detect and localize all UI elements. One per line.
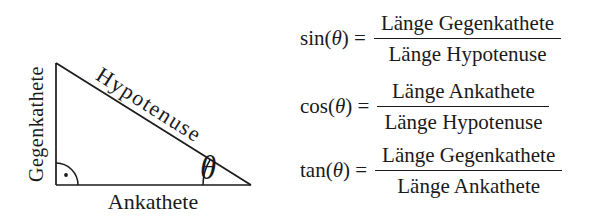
cosine-fraction: Länge Ankathete Länge Hypotenuse <box>377 79 549 134</box>
sine-formula: sin(θ) = Länge Gegenkathete Länge Hypote… <box>300 11 561 66</box>
close-paren-equals: ) = <box>342 26 366 50</box>
sine-formula-lhs: sin(θ) = <box>300 26 366 51</box>
theta-angle-symbol: θ <box>200 150 216 187</box>
close-paren-equals: ) = <box>345 94 369 118</box>
sine-fraction: Länge Gegenkathete Länge Hypotenuse <box>374 11 561 66</box>
open-paren: ( <box>326 158 333 182</box>
theta-symbol: θ <box>333 158 343 182</box>
function-name: sin <box>300 26 325 50</box>
fraction-numerator: Länge Gegenkathete <box>375 143 562 170</box>
cosine-formula-lhs: cos(θ) = <box>300 94 369 119</box>
fraction-denominator: Länge Hypotenuse <box>382 39 554 66</box>
fraction-numerator: Länge Ankathete <box>385 79 542 106</box>
right-angle-dot <box>64 173 68 177</box>
open-paren: ( <box>325 26 332 50</box>
fraction-denominator: Länge Ankathete <box>390 171 547 198</box>
function-name: cos <box>300 94 328 118</box>
fraction-denominator: Länge Hypotenuse <box>377 107 549 134</box>
theta-symbol: θ <box>335 94 345 118</box>
close-paren-equals: ) = <box>343 158 367 182</box>
trigonometry-figure: Gegenkathete Hypotenuse Ankathete θ sin(… <box>0 0 598 217</box>
function-name: tan <box>300 158 326 182</box>
tangent-formula: tan(θ) = Länge Gegenkathete Länge Ankath… <box>300 143 562 198</box>
cosine-formula: cos(θ) = Länge Ankathete Länge Hypotenus… <box>300 79 549 134</box>
tangent-fraction: Länge Gegenkathete Länge Ankathete <box>375 143 562 198</box>
fraction-numerator: Länge Gegenkathete <box>374 11 561 38</box>
open-paren: ( <box>328 94 335 118</box>
triangle-side-hypotenuse <box>56 63 251 185</box>
adjacent-side-label: Ankathete <box>108 189 198 215</box>
theta-symbol: θ <box>332 26 342 50</box>
right-triangle-diagram: Gegenkathete Hypotenuse Ankathete θ <box>0 0 298 217</box>
opposite-side-label: Gegenkathete <box>25 66 48 182</box>
tangent-formula-lhs: tan(θ) = <box>300 158 367 183</box>
trig-formula-list: sin(θ) = Länge Gegenkathete Länge Hypote… <box>300 0 598 217</box>
